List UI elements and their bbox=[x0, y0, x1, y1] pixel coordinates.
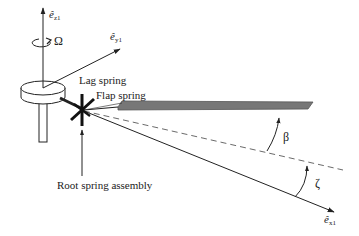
ey1-sub: y1 bbox=[115, 36, 122, 44]
root-spring-assembly-label: Root spring assembly bbox=[57, 180, 152, 191]
ez1-label: êz1 bbox=[49, 9, 61, 22]
flap-spring-label: Flap spring bbox=[96, 90, 146, 101]
beta-angle-arc bbox=[267, 118, 279, 151]
dashed-reference-line bbox=[84, 111, 343, 170]
lag-spring-label: Lag spring bbox=[79, 75, 126, 86]
zeta-angle-arc bbox=[295, 166, 307, 197]
omega-label: Ω bbox=[54, 35, 63, 47]
x-axis-arrow bbox=[84, 111, 334, 212]
ex1-label: êx1 bbox=[324, 214, 336, 227]
zeta-label: ζ bbox=[315, 177, 320, 189]
ez1-sub: z1 bbox=[54, 14, 61, 22]
beta-label: β bbox=[283, 131, 289, 143]
ex1-sub: x1 bbox=[329, 219, 336, 227]
rotor-shaft bbox=[39, 100, 47, 142]
rotor-blade bbox=[84, 101, 313, 110]
rotation-omega-icon bbox=[32, 38, 51, 47]
ey1-label: êy1 bbox=[110, 31, 122, 44]
